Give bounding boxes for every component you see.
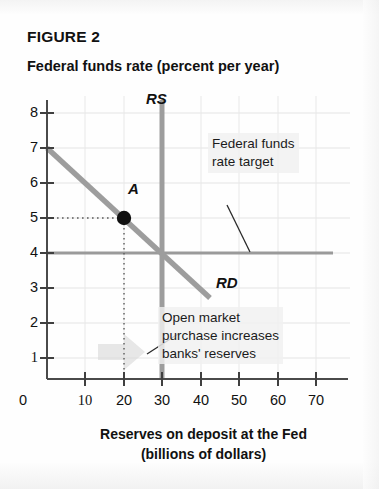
equilibrium-point-a bbox=[117, 211, 131, 225]
annotation-omo-line2: purchase increases bbox=[162, 327, 279, 345]
curve-label-rs: RS bbox=[146, 90, 167, 107]
annotation-omo-line1: Open market bbox=[162, 309, 279, 327]
scan-edge-top bbox=[0, 0, 379, 14]
x-axis-caption-line1: Reserves on deposit at the Fed bbox=[14, 426, 379, 442]
y-tick-label-8: 8 bbox=[22, 104, 38, 120]
figure-number-label: FIGURE 2 bbox=[27, 28, 100, 46]
x-tick-label-70: 70 bbox=[303, 392, 329, 408]
y-tick-label-5: 5 bbox=[22, 209, 38, 225]
scan-edge-bottom bbox=[0, 463, 379, 489]
curve-label-rd: RD bbox=[216, 274, 238, 291]
x-tick-label-10: 10 bbox=[72, 392, 98, 409]
point-label-a: A bbox=[128, 180, 139, 197]
y-tick-label-7: 7 bbox=[22, 139, 38, 155]
y-tick-label-1: 1 bbox=[22, 349, 38, 366]
x-tick-label-30: 30 bbox=[149, 392, 175, 408]
y-tick-label-6: 6 bbox=[22, 174, 38, 190]
y-tick-label-2: 2 bbox=[22, 314, 38, 330]
annotation-omo-line3: banks' reserves bbox=[162, 345, 279, 363]
x-tick-label-50: 50 bbox=[226, 392, 252, 408]
figure-container: FIGURE 2 Federal funds rate (percent per… bbox=[0, 0, 379, 489]
y-tick-label-3: 3 bbox=[22, 279, 38, 295]
x-tick-label-20: 20 bbox=[111, 392, 137, 408]
annotation-target-line1: Federal funds bbox=[212, 135, 295, 153]
y-axis-title: Federal funds rate (percent per year) bbox=[27, 58, 279, 74]
annotation-federal-funds-target: Federal funds rate target bbox=[208, 133, 299, 173]
annotation-open-market-purchase: Open market purchase increases banks' re… bbox=[158, 307, 283, 364]
annotation-target-line2: rate target bbox=[212, 153, 295, 171]
x-tick-label-40: 40 bbox=[188, 392, 214, 408]
x-axis-caption-line2: (billions of dollars) bbox=[14, 446, 379, 462]
y-tick-label-4: 4 bbox=[22, 244, 38, 260]
x-tick-label-60: 60 bbox=[265, 392, 291, 408]
open-market-arrow bbox=[98, 334, 145, 370]
x-tick-label-0: 0 bbox=[10, 392, 36, 408]
